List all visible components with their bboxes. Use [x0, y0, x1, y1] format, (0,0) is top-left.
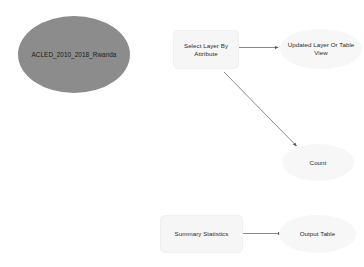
node-count[interactable]: Count [282, 144, 354, 181]
node-output-table[interactable]: Output Table [279, 215, 356, 253]
node-input-layer[interactable]: ACLED_2010_2018_Rwanda [18, 16, 130, 93]
node-updated-layer-or-table-view-label: Updated Layer Or Table View [282, 41, 360, 57]
node-summary-statistics-label: Summary Statistics [175, 230, 229, 238]
node-count-label: Count [310, 159, 327, 167]
node-select-layer-by-attribute[interactable]: Select Layer By Attribute [173, 30, 239, 69]
node-summary-statistics[interactable]: Summary Statistics [160, 215, 243, 253]
connector-select-layer-to-count [224, 72, 297, 146]
node-select-layer-by-attribute-label: Select Layer By Attribute [176, 42, 236, 58]
diagram-canvas: ACLED_2010_2018_Rwanda Select Layer By A… [0, 0, 364, 267]
node-updated-layer-or-table-view[interactable]: Updated Layer Or Table View [280, 29, 362, 69]
node-input-layer-label: ACLED_2010_2018_Rwanda [32, 51, 117, 59]
node-output-table-label: Output Table [300, 230, 336, 238]
